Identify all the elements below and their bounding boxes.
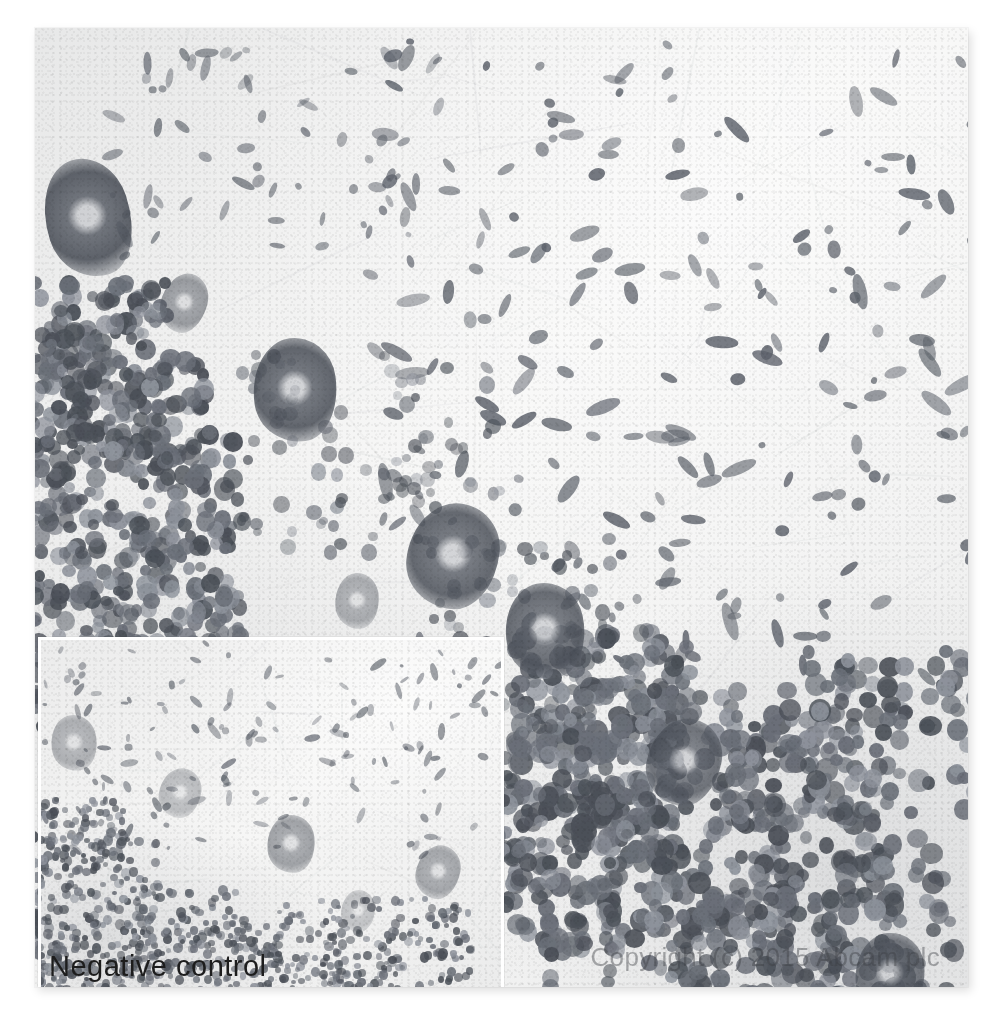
inset-film-grain <box>38 637 504 987</box>
screenshot-stage: Copyright (c) 2015 Abcam plc Negative co… <box>0 0 1003 1023</box>
inset-tissue-wash <box>41 640 501 987</box>
negative-control-inset: Negative control <box>38 637 504 987</box>
negative-control-label: Negative control <box>49 950 267 983</box>
micrograph-plate: Copyright (c) 2015 Abcam plc Negative co… <box>35 28 968 987</box>
copyright-watermark: Copyright (c) 2015 Abcam plc <box>591 942 940 973</box>
